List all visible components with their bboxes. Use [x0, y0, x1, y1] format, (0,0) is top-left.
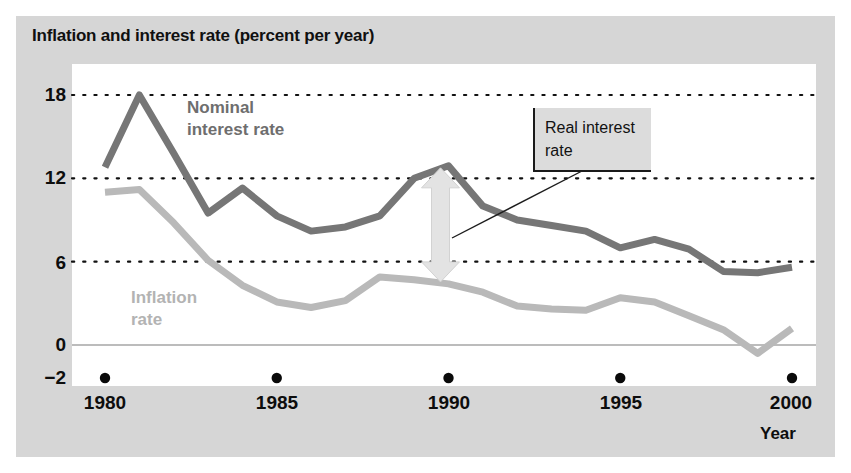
x-tick-1995: 1995	[600, 392, 642, 414]
y-tick-0: 0	[55, 334, 66, 356]
series-label-inflation: Inflation rate	[131, 287, 197, 332]
chart-figure: Inflation and interest rate (percent per…	[0, 0, 851, 473]
y-tick-neg2: −2	[44, 367, 66, 389]
x-tick-1980: 1980	[84, 392, 126, 414]
page-title: Inflation and interest rate (percent per…	[32, 26, 374, 46]
y-tick-18: 18	[45, 84, 66, 106]
y-axis-labels: 18 12 6 0 −2	[22, 64, 66, 386]
x-tick-1990: 1990	[428, 392, 470, 414]
x-tick-1985: 1985	[256, 392, 298, 414]
x-axis-title: Year	[760, 424, 796, 444]
plot-area	[72, 64, 816, 386]
x-tick-2000: 2000	[770, 392, 812, 414]
y-tick-6: 6	[55, 252, 66, 274]
x-axis-labels: 1980 1985 1990 1995 2000	[0, 392, 851, 426]
y-tick-12: 12	[45, 167, 66, 189]
real-interest-rate-callout: Real interest rate	[533, 108, 651, 172]
callout-label: Real interest rate	[545, 117, 635, 162]
series-label-nominal: Nominal interest rate	[187, 97, 284, 142]
